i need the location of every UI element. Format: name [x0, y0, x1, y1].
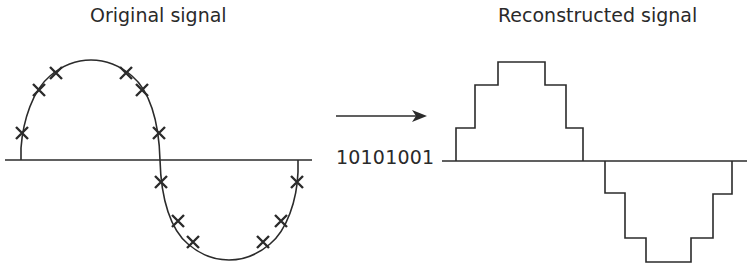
cross-mark-icon	[33, 84, 45, 96]
cross-mark-icon	[50, 67, 62, 79]
signal-diagram	[0, 0, 747, 271]
cross-mark-icon	[257, 236, 269, 248]
cross-mark-icon	[275, 215, 287, 227]
cross-mark-icon	[120, 67, 132, 79]
reconstructed-staircase	[456, 62, 732, 262]
cross-mark-icon	[187, 236, 199, 248]
cross-mark-icon	[172, 215, 184, 227]
